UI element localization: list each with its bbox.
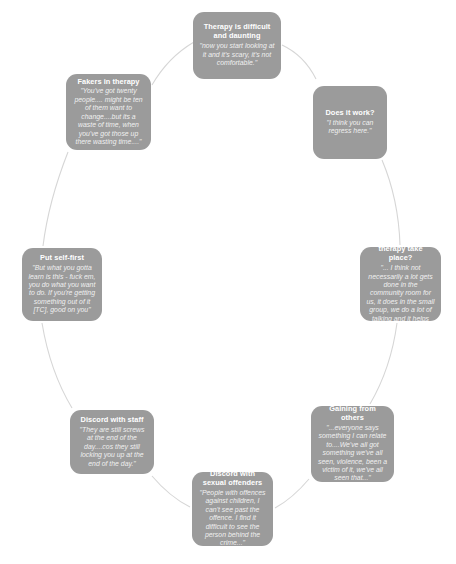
node-fakers-in-therapy[interactable]: Fakers in therapy "You've got twenty peo… [66,74,151,150]
node-quote: "... I think not necessarily a lot gets … [366,264,435,321]
cycle-diagram: Therapy is difficult and daunting "now y… [0,0,456,564]
node-title: Fakers in therapy [77,78,139,87]
connector-work-to-where [382,160,400,245]
connector-sexual-to-staff [152,476,190,507]
connector-therapy-to-work [282,45,316,79]
connector-staff-to-self [42,323,72,408]
node-title: Discord with sexual offenders [198,472,267,488]
node-quote: "But what you gotta learn is this - fuck… [28,264,96,315]
node-does-it-work[interactable]: Does it work? "I think you can regress h… [313,86,387,159]
node-quote: "...everyone says something I can relate… [317,424,388,482]
node-title: Discord with staff [81,416,144,425]
node-title: Does it work? [325,109,374,118]
node-quote: "You've got twenty people.... might be t… [72,87,145,146]
connector-gaining-to-sexual [275,479,309,508]
node-quote: "I think you can regress here." [319,119,381,136]
node-gaining-from-others[interactable]: Gaining from others "...everyone says so… [311,406,394,482]
node-put-self-first[interactable]: Put self-first "But what you gotta learn… [22,248,102,321]
connector-fakers-to-therapy [152,42,194,85]
node-quote: "now you start looking at it and it's sc… [199,42,275,67]
node-therapy-is-difficult-and-daunting[interactable]: Therapy is difficult and daunting "now y… [193,12,281,79]
node-where-does-therapy-take-place[interactable]: Where does therapy take place? "... I th… [360,247,441,321]
node-title: Gaining from others [317,406,388,423]
node-discord-with-staff[interactable]: Discord with staff "They are still screw… [70,410,154,474]
node-title: Where does therapy take place? [366,247,435,263]
node-title: Therapy is difficult and daunting [199,23,275,41]
node-quote: "They are still screws at the end of the… [76,426,148,468]
node-discord-with-sexual-offenders[interactable]: Discord with sexual offenders "People wi… [192,472,273,546]
node-quote: "People with offences against children, … [198,489,267,546]
node-title: Put self-first [40,254,84,263]
connector-where-to-gaining [370,323,397,404]
connector-self-to-fakers [43,152,68,246]
